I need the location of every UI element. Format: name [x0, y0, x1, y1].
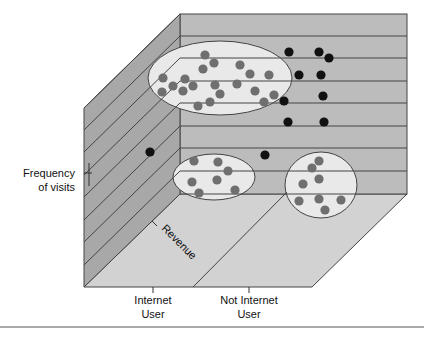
- outlier-point: [294, 70, 303, 79]
- cluster-point: [193, 101, 202, 110]
- internet-user-label-line2: User: [141, 308, 165, 320]
- cluster-point: [245, 69, 254, 78]
- cluster-point: [205, 97, 214, 106]
- cluster-point: [320, 205, 329, 214]
- segmentation-3d-diagram: Frequency of visits Revenue Internet Use…: [0, 0, 424, 342]
- cluster-point: [264, 70, 273, 79]
- cluster-point: [194, 188, 203, 197]
- outlier-point: [145, 147, 154, 156]
- cluster-point: [215, 89, 224, 98]
- cluster-point: [180, 74, 189, 83]
- cluster-point: [250, 86, 259, 95]
- not-internet-user-label-line1: Not Internet: [220, 294, 277, 306]
- cluster-point: [269, 90, 278, 99]
- cluster-point: [210, 80, 219, 89]
- outlier-point: [283, 117, 292, 126]
- outlier-point: [279, 96, 288, 105]
- cluster-point: [209, 58, 218, 67]
- outlier-point: [260, 150, 269, 159]
- cluster-point: [232, 79, 241, 88]
- frequency-label-line1: Frequency: [23, 167, 75, 179]
- cluster-point: [212, 175, 221, 184]
- cluster-point: [157, 87, 166, 96]
- cluster-point: [168, 81, 177, 90]
- cluster-point: [187, 177, 196, 186]
- cluster-point: [259, 97, 268, 106]
- not-internet-user-label-line2: User: [237, 308, 261, 320]
- internet-user-label-line1: Internet: [134, 294, 171, 306]
- outlier-point: [314, 47, 323, 56]
- frequency-label-line2: of visits: [38, 181, 75, 193]
- cluster-point: [223, 166, 232, 175]
- cluster-point: [298, 179, 307, 188]
- cluster-point: [314, 174, 323, 183]
- cluster-point: [158, 73, 167, 82]
- outlier-point: [324, 53, 333, 62]
- cluster-point: [198, 64, 207, 73]
- outlier-point: [284, 47, 293, 56]
- cluster-point: [178, 86, 187, 95]
- cluster-point: [235, 60, 244, 69]
- outlier-point: [316, 70, 325, 79]
- cluster-point: [200, 50, 209, 59]
- outlier-point: [318, 91, 327, 100]
- cluster-point: [188, 81, 197, 90]
- cluster-point: [189, 156, 198, 165]
- cluster-point: [336, 195, 345, 204]
- cluster-point: [314, 156, 323, 165]
- cluster-point: [230, 185, 239, 194]
- outlier-point: [319, 117, 328, 126]
- cluster-point: [294, 196, 303, 205]
- cluster-point: [213, 157, 222, 166]
- cluster-point: [307, 163, 316, 172]
- cluster-point: [314, 194, 323, 203]
